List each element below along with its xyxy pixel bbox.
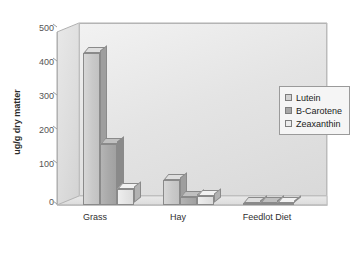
y-axis-tick-200: 200: [24, 126, 54, 135]
bar-hay-lutein: [163, 180, 180, 205]
x-axis-label-grass: Grass: [60, 212, 130, 222]
bar-grass-zeaxanthin: [117, 189, 134, 205]
bar-feedlot-b-carotene: [260, 203, 277, 205]
bar-front-face: [83, 53, 100, 205]
bar-hay-b-carotene: [180, 197, 197, 205]
bar-front-face: [260, 203, 277, 205]
legend-label-b-carotene: B-Carotene: [296, 106, 342, 116]
legend-label-lutein: Lutein: [296, 93, 321, 103]
bar-grass-b-carotene: [100, 144, 117, 205]
legend-item-lutein: Lutein: [285, 91, 342, 104]
x-axis-label-feedlot: Feedlot Diet: [222, 212, 312, 222]
y-axis-tick-0: 0: [24, 198, 54, 207]
legend-item-zeaxanthin: Zeaxanthin: [285, 117, 342, 130]
bar-front-face: [197, 196, 214, 205]
chart-legend: Lutein B-Carotene Zeaxanthin: [279, 86, 350, 135]
bar-front-face: [100, 144, 117, 205]
bar-front-face: [163, 180, 180, 205]
y-axis-title: ug/g dry matter: [10, 62, 24, 182]
y-axis-title-text: ug/g dry matter: [12, 89, 22, 155]
legend-label-zeaxanthin: Zeaxanthin: [296, 119, 341, 129]
bar-front-face: [117, 189, 134, 205]
y-axis-tick-500: 500: [24, 24, 54, 33]
bar-feedlot-zeaxanthin: [277, 203, 294, 205]
legend-item-b-carotene: B-Carotene: [285, 104, 342, 117]
y-axis-tick-labels: 500 400 300 200 100 0: [24, 0, 54, 261]
legend-swatch-lutein-icon: [285, 94, 292, 101]
bar-front-face: [180, 197, 197, 205]
legend-swatch-b-carotene-icon: [285, 107, 292, 114]
y-axis-tick-400: 400: [24, 58, 54, 67]
bar-grass-lutein: [83, 53, 100, 205]
legend-swatch-zeaxanthin-icon: [285, 120, 292, 127]
bar-front-face: [277, 203, 294, 205]
bar-front-face: [243, 203, 260, 205]
y-axis-tick-300: 300: [24, 92, 54, 101]
y-axis-tick-100: 100: [24, 160, 54, 169]
x-axis-label-hay: Hay: [143, 212, 213, 222]
bar-feedlot-lutein: [243, 203, 260, 205]
plot-area: Lutein B-Carotene Zeaxanthin: [57, 23, 327, 205]
bar-hay-zeaxanthin: [197, 196, 214, 205]
